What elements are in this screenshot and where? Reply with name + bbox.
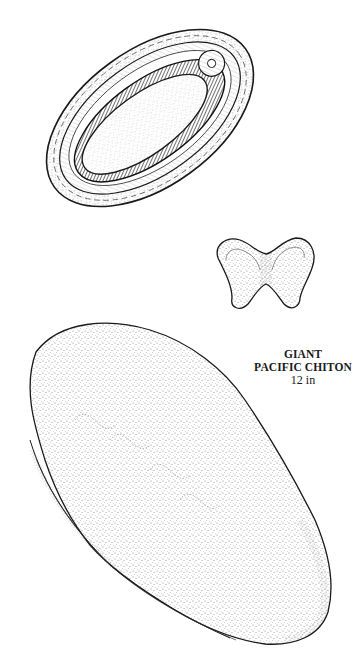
ventral-view (15, 0, 286, 242)
caption-size: 12 in (244, 374, 362, 387)
shell-valve (217, 238, 314, 308)
species-caption: GIANT PACIFIC CHITON 12 in (244, 348, 362, 387)
caption-line-1: GIANT (244, 348, 362, 361)
chiton-illustration (0, 0, 364, 669)
